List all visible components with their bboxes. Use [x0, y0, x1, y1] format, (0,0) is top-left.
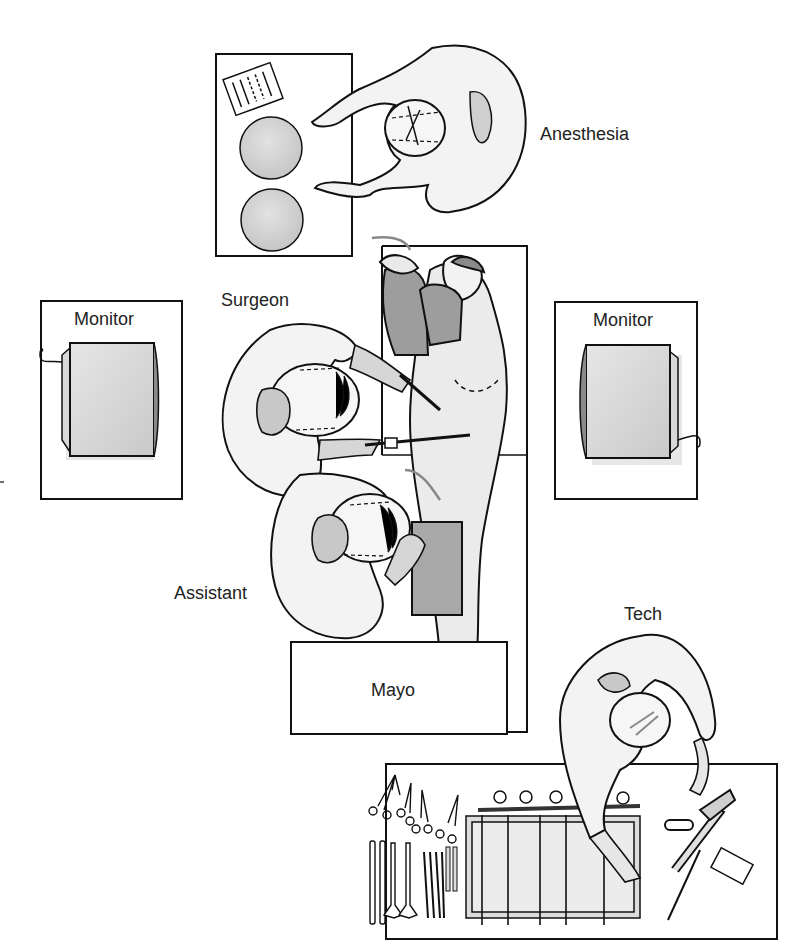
- label-tech: Tech: [624, 604, 662, 625]
- label-monitor-right: Monitor: [593, 310, 653, 331]
- anesthesia-disc-top: [240, 117, 302, 179]
- label-surgeon: Surgeon: [221, 290, 289, 311]
- label-assistant: Assistant: [174, 583, 247, 604]
- label-mayo: Mayo: [371, 680, 415, 701]
- monitor-right: [555, 302, 700, 499]
- anesthesia-disc-bottom: [241, 189, 303, 251]
- anesthesia-cart: [216, 54, 352, 256]
- or-layout-illustration: [0, 0, 804, 945]
- assistant-person: [271, 474, 425, 639]
- monitor-left: [40, 301, 182, 499]
- retractors: [370, 841, 417, 924]
- label-monitor-left: Monitor: [74, 309, 134, 330]
- label-anesthesia: Anesthesia: [540, 124, 629, 145]
